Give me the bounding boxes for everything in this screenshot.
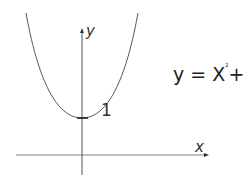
y-axis-arrow-icon: [80, 28, 84, 33]
y-axis-label: y: [86, 22, 95, 40]
graph-canvas: [0, 0, 252, 183]
equation-rhs: + 1: [228, 63, 252, 85]
y-intercept-label: 1: [101, 100, 112, 120]
x-axis-label: x: [195, 138, 204, 156]
equation-exponent: 2: [225, 62, 228, 68]
equation-lhs: y = X: [173, 63, 225, 85]
equation-label: y = X2+ 1: [173, 63, 252, 85]
x-axis-arrow-icon: [204, 153, 209, 157]
